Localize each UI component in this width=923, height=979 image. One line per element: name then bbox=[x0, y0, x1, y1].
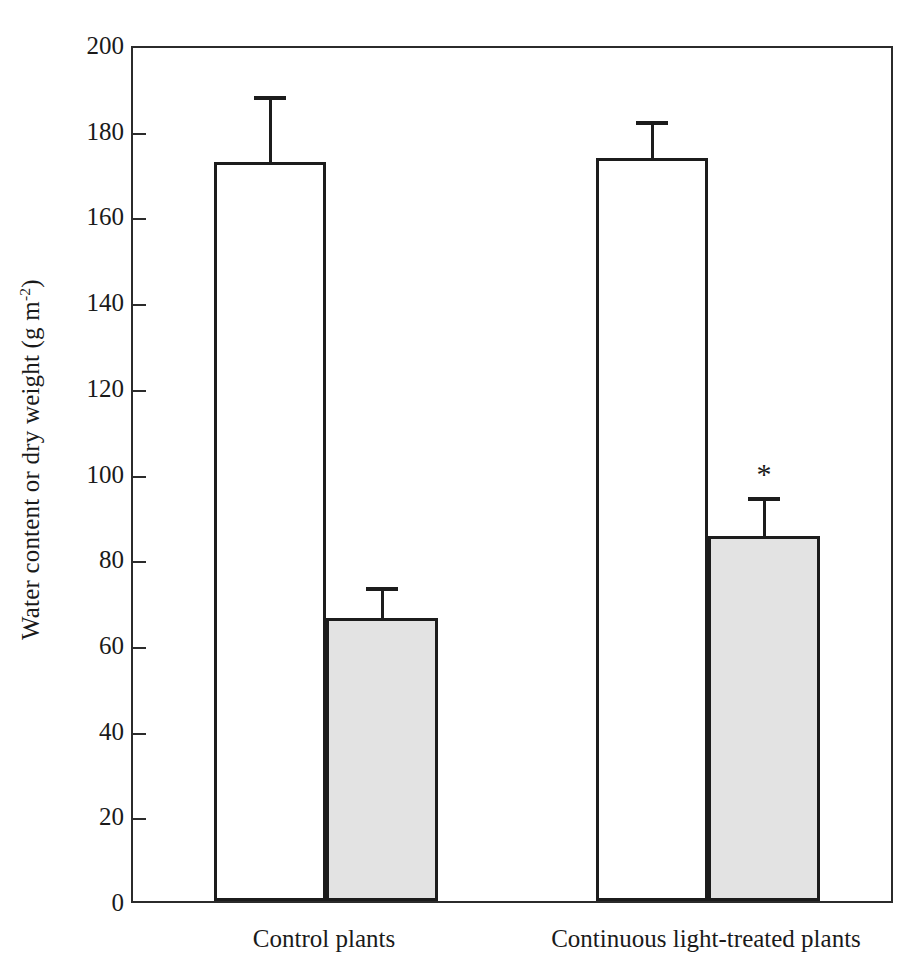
y-axis-label-superscript: -2 bbox=[15, 288, 32, 301]
y-tick-mark bbox=[133, 304, 146, 306]
y-tick-mark bbox=[133, 390, 146, 392]
error-bar-line bbox=[763, 501, 766, 535]
y-tick-label: 60 bbox=[62, 633, 124, 658]
error-bar-line bbox=[651, 125, 654, 157]
error-bar-cap bbox=[366, 587, 398, 591]
bar-dry-weight-1 bbox=[326, 618, 438, 901]
y-axis-label: Water content or dry weight (g m-2) bbox=[15, 280, 44, 641]
y-axis-label-suffix: ) bbox=[17, 280, 44, 289]
figure-container: Water content or dry weight (g m-2) 0204… bbox=[0, 0, 923, 979]
x-axis-tick-labels: Control plantsContinuous light-treated p… bbox=[131, 925, 893, 969]
y-tick-label: 200 bbox=[62, 33, 124, 58]
x-category-label: Continuous light-treated plants bbox=[551, 925, 861, 953]
y-tick-mark bbox=[133, 647, 146, 649]
x-category-label: Control plants bbox=[253, 925, 395, 953]
y-axis-tick-labels: 020406080100120140160180200 bbox=[62, 0, 124, 979]
y-tick-label: 140 bbox=[62, 290, 124, 315]
error-bar-cap bbox=[748, 497, 780, 501]
y-tick-label: 0 bbox=[62, 890, 124, 915]
y-tick-mark bbox=[133, 818, 146, 820]
error-bar-cap bbox=[636, 121, 668, 125]
plot-area: * bbox=[131, 46, 893, 903]
significance-asterisk: * bbox=[757, 459, 772, 489]
y-tick-mark bbox=[133, 561, 146, 563]
y-tick-mark bbox=[133, 476, 146, 478]
y-axis-label-text: Water content or dry weight (g m bbox=[17, 301, 44, 640]
y-tick-mark bbox=[133, 733, 146, 735]
y-tick-label: 40 bbox=[62, 719, 124, 744]
bar-water-content-1 bbox=[214, 162, 326, 901]
error-bar-line bbox=[269, 100, 272, 162]
y-tick-label: 100 bbox=[62, 462, 124, 487]
bar-water-content-2 bbox=[596, 158, 708, 901]
y-tick-label: 120 bbox=[62, 376, 124, 401]
y-tick-label: 20 bbox=[62, 804, 124, 829]
y-axis-label-wrapper: Water content or dry weight (g m-2) bbox=[0, 0, 60, 920]
error-bar-line bbox=[381, 591, 384, 618]
bar-dry-weight-2 bbox=[708, 536, 820, 902]
y-tick-label: 180 bbox=[62, 119, 124, 144]
error-bar-cap bbox=[254, 96, 286, 100]
y-tick-mark bbox=[133, 218, 146, 220]
y-tick-label: 160 bbox=[62, 204, 124, 229]
y-tick-label: 80 bbox=[62, 547, 124, 572]
y-tick-mark bbox=[133, 133, 146, 135]
